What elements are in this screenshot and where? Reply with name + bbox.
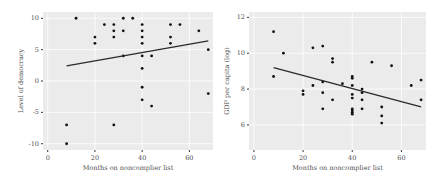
data-point — [131, 17, 134, 20]
data-point — [302, 89, 305, 92]
plot-background — [249, 12, 426, 150]
data-point — [150, 55, 153, 58]
data-point — [371, 61, 374, 64]
gdp-scatter-panel: 0204060681012Months on noncomplier listG… — [221, 0, 442, 175]
data-point — [197, 29, 200, 32]
data-point — [65, 124, 68, 127]
data-point — [207, 92, 210, 95]
x-tick-label: 40 — [348, 154, 356, 162]
x-tick-label: 20 — [91, 154, 99, 162]
data-point — [380, 115, 383, 118]
x-tick-label: 60 — [397, 154, 405, 162]
data-point — [141, 67, 144, 70]
data-point — [112, 29, 115, 32]
data-point — [103, 23, 106, 26]
data-point — [141, 86, 144, 89]
x-tick-label: 0 — [252, 154, 256, 162]
y-tick-label: 0 — [35, 77, 39, 85]
y-tick-label: 6 — [241, 121, 245, 129]
data-point — [380, 106, 383, 109]
y-axis-label: GDP per capita (log) — [223, 47, 231, 115]
data-point — [122, 29, 125, 32]
data-point — [112, 124, 115, 127]
data-point — [141, 36, 144, 39]
x-axis-label: Months on noncomplier list — [83, 164, 174, 172]
data-point — [331, 57, 334, 60]
data-point — [141, 42, 144, 45]
x-axis-label: Months on noncomplier list — [292, 164, 383, 172]
data-point — [351, 84, 354, 87]
data-point — [361, 107, 364, 110]
data-point — [282, 52, 285, 55]
y-tick-label: 12 — [237, 13, 245, 21]
data-point — [141, 23, 144, 26]
data-point — [420, 79, 423, 82]
x-tick-label: 0 — [46, 154, 50, 162]
data-point — [141, 29, 144, 32]
data-point — [75, 17, 78, 20]
y-axis-label: Level of democracy — [17, 49, 25, 114]
data-point — [321, 107, 324, 110]
democracy-scatter-plot: 0204060-10-50510Months on noncomplier li… — [0, 0, 221, 175]
data-point — [321, 45, 324, 48]
data-point — [94, 36, 97, 39]
data-point — [179, 23, 182, 26]
data-point — [112, 36, 115, 39]
data-point — [272, 75, 275, 78]
y-tick-label: -10 — [29, 140, 39, 148]
data-point — [321, 91, 324, 94]
data-point — [169, 23, 172, 26]
x-tick-label: 20 — [299, 154, 307, 162]
x-tick-label: 60 — [185, 154, 193, 162]
data-point — [331, 61, 334, 64]
y-tick-label: 10 — [237, 49, 245, 57]
data-point — [361, 98, 364, 101]
y-tick-label: -5 — [33, 108, 39, 116]
data-point — [341, 82, 344, 85]
gdp-scatter-plot: 0204060681012Months on noncomplier listG… — [221, 0, 442, 175]
data-point — [312, 84, 315, 87]
data-point — [150, 105, 153, 108]
data-point — [331, 98, 334, 101]
data-point — [410, 84, 413, 87]
data-point — [169, 36, 172, 39]
data-point — [351, 113, 354, 116]
data-point — [380, 122, 383, 125]
data-point — [351, 77, 354, 80]
data-point — [351, 93, 354, 96]
data-point — [390, 64, 393, 67]
y-tick-label: 5 — [35, 46, 39, 54]
data-point — [65, 142, 68, 145]
data-point — [94, 42, 97, 45]
data-point — [420, 98, 423, 101]
data-point — [312, 46, 315, 49]
data-point — [272, 30, 275, 33]
data-point — [141, 98, 144, 101]
data-point — [361, 88, 364, 91]
data-point — [112, 23, 115, 26]
data-point — [141, 55, 144, 58]
data-point — [122, 17, 125, 20]
data-point — [169, 42, 172, 45]
y-tick-label: 8 — [241, 85, 245, 93]
data-point — [207, 48, 210, 51]
data-point — [351, 97, 354, 100]
democracy-scatter-panel: 0204060-10-50510Months on noncomplier li… — [0, 0, 221, 175]
data-point — [302, 93, 305, 96]
y-tick-label: 10 — [31, 14, 39, 22]
x-tick-label: 40 — [138, 154, 146, 162]
